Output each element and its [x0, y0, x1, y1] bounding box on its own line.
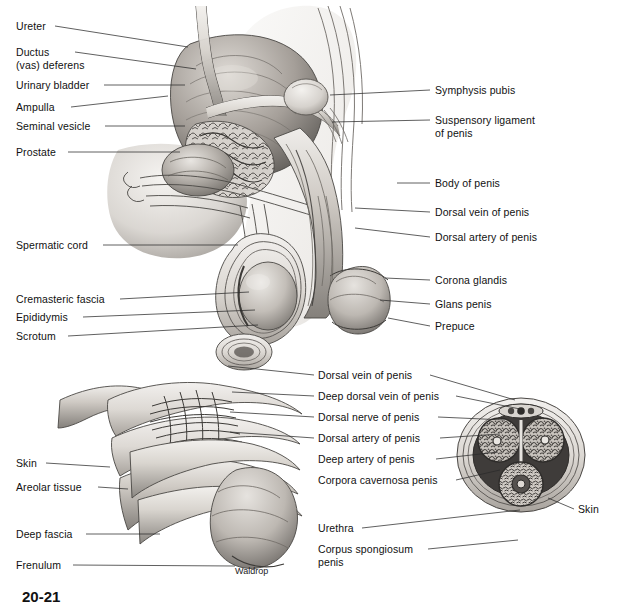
cs-deep-artery-left	[493, 437, 501, 445]
label-symphysis-pubis: Symphysis pubis	[435, 84, 515, 97]
label-deep-fascia: Deep fascia	[16, 528, 73, 541]
label-seminal-vesicle: Seminal vesicle	[16, 120, 90, 133]
cs-dorsal-artery	[508, 408, 514, 414]
leader-line	[362, 510, 520, 528]
label-dorsal-vein-of-penis-2: Dorsal vein of penis	[318, 369, 412, 382]
artist-signature: Waldrop	[235, 566, 268, 576]
label-deep-dorsal-vein-of-penis: Deep dorsal vein of penis	[318, 390, 439, 403]
leader-line	[355, 228, 430, 237]
leader-line	[430, 375, 515, 400]
label-prepuce: Prepuce	[435, 320, 475, 333]
leader-line	[355, 208, 430, 212]
label-prostate: Prostate	[16, 146, 56, 159]
leader-line	[71, 96, 168, 107]
label-corpora-cavernosa-penis: Corpora cavernosa penis	[318, 474, 438, 487]
label-urinary-bladder: Urinary bladder	[16, 79, 89, 92]
label-skin: Skin	[16, 457, 37, 470]
label-skin-cross-section: Skin	[578, 503, 599, 516]
glans-dissection	[210, 468, 297, 569]
label-corpus-spongiosum-penis: Corpus spongiosum penis	[318, 543, 413, 568]
upper-panel-illustration	[107, 6, 390, 346]
label-dorsal-vein-of-penis: Dorsal vein of penis	[435, 206, 529, 219]
small-section-ring	[216, 334, 272, 370]
cross-section-illustration	[457, 398, 585, 512]
symphysis-pubis-bone	[284, 79, 328, 115]
label-scrotum: Scrotum	[16, 330, 56, 343]
cs-dorsal-nerve	[528, 408, 534, 414]
label-ureter: Ureter	[16, 20, 46, 33]
label-frenulum: Frenulum	[16, 559, 61, 572]
leader-line	[230, 412, 314, 417]
leader-line	[55, 26, 188, 47]
label-dorsal-artery-of-penis-2: Dorsal artery of penis	[318, 432, 420, 445]
cs-urethra-lumen	[517, 480, 525, 488]
cs-deep-artery-right	[541, 436, 549, 444]
leader-line	[46, 463, 110, 467]
lower-left-dissection	[58, 334, 302, 568]
scrotum-and-testis	[216, 234, 306, 346]
label-spermatic-cord: Spermatic cord	[16, 239, 88, 252]
figure-number: 20-21	[22, 588, 60, 605]
label-corona-glandis: Corona glandis	[435, 274, 507, 287]
leader-line	[73, 565, 235, 566]
leader-line	[228, 366, 314, 375]
label-epididymis: Epididymis	[16, 311, 68, 324]
label-urethra: Urethra	[318, 522, 354, 535]
label-dorsal-nerve-of-penis: Dorsal nerve of penis	[318, 411, 419, 424]
label-deep-artery-of-penis: Deep artery of penis	[318, 453, 415, 466]
label-ductus-vas-deferens: Ductus (vas) deferens	[16, 46, 85, 71]
label-cremasteric-fascia: Cremasteric fascia	[16, 293, 105, 306]
leader-line	[388, 318, 430, 326]
leader-line	[385, 278, 430, 280]
label-suspensory-ligament-of-penis: Suspensory ligament of penis	[435, 114, 535, 139]
label-body-of-penis: Body of penis	[435, 177, 500, 190]
leader-line	[332, 120, 430, 122]
leader-line	[428, 540, 518, 549]
label-glans-penis: Glans penis	[435, 298, 492, 311]
label-dorsal-artery-of-penis: Dorsal artery of penis	[435, 231, 537, 244]
label-areolar-tissue: Areolar tissue	[16, 481, 82, 494]
label-ampulla: Ampulla	[16, 101, 55, 114]
